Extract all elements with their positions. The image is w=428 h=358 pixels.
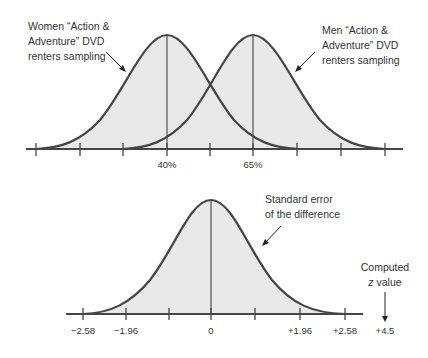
svg-text:z value: z value xyxy=(367,276,401,288)
svg-text:renters sampling: renters sampling xyxy=(322,54,400,66)
svg-text:renters sampling: renters sampling xyxy=(28,50,106,62)
men-label: Men “Action & Adventure” DVD renters sam… xyxy=(322,24,400,66)
svg-text:Standard error: Standard error xyxy=(265,193,333,205)
sampling-distribution-diagram: 40% 65% Women “Action & Adventure” DVD r… xyxy=(0,0,428,358)
svg-text:Adventure” DVD: Adventure” DVD xyxy=(322,39,399,51)
svg-text:Adventure” DVD: Adventure” DVD xyxy=(28,35,105,47)
tick-label-neg-1-96: −1.96 xyxy=(114,325,138,336)
tick-label-pos-2-58: +2.58 xyxy=(333,325,357,336)
tick-label-40: 40% xyxy=(157,159,177,170)
svg-text:Women “Action &: Women “Action & xyxy=(28,20,110,32)
tick-label-zero: 0 xyxy=(208,325,213,336)
bottom-diagram: −2.58 −1.96 0 +1.96 +2.58 +4.5 Standard … xyxy=(66,193,409,336)
men-arrow-icon xyxy=(295,52,315,72)
women-arrow-icon xyxy=(106,52,126,72)
svg-text:Men “Action &: Men “Action & xyxy=(322,24,388,36)
computed-down-arrow-icon xyxy=(382,292,388,322)
svg-text:of the difference: of the difference xyxy=(265,208,340,220)
tick-label-65: 65% xyxy=(243,159,263,170)
women-label: Women “Action & Adventure” DVD renters s… xyxy=(28,20,110,62)
standard-error-arrow-icon xyxy=(262,226,281,246)
standard-error-label: Standard error of the difference xyxy=(265,193,340,220)
svg-text:Computed: Computed xyxy=(361,261,410,273)
computed-value: +4.5 xyxy=(376,325,395,336)
computed-z-label: Computed z value xyxy=(361,261,410,288)
tick-label-pos-1-96: +1.96 xyxy=(288,325,312,336)
top-diagram: 40% 65% Women “Action & Adventure” DVD r… xyxy=(26,20,403,170)
tick-label-neg-2-58: −2.58 xyxy=(71,325,95,336)
